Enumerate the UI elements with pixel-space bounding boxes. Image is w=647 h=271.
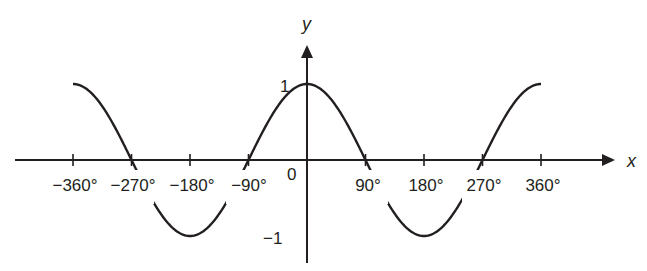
x-tick-label: 360° xyxy=(525,176,560,195)
x-axis-arrow-icon xyxy=(602,154,615,166)
x-tick-label: −270° xyxy=(110,176,155,195)
x-tick-label: −180° xyxy=(169,176,214,195)
x-tick-label: −360° xyxy=(52,176,97,195)
x-tick-label: −90° xyxy=(231,176,267,195)
y-tick-label-1: 1 xyxy=(280,77,289,96)
x-axis-label: x xyxy=(626,151,637,171)
x-tick-label: 270° xyxy=(466,176,501,195)
y-axis-label: y xyxy=(300,14,312,34)
x-tick-label: 90° xyxy=(355,176,381,195)
cosine-graph: x y 0 1 −1 −360° −270° −180° −90° 90° 18… xyxy=(0,0,647,271)
y-tick-label-minus-1: −1 xyxy=(263,229,282,248)
y-axis-arrow-icon xyxy=(301,45,313,58)
origin-label: 0 xyxy=(287,165,296,184)
x-tick-label: 180° xyxy=(408,176,443,195)
